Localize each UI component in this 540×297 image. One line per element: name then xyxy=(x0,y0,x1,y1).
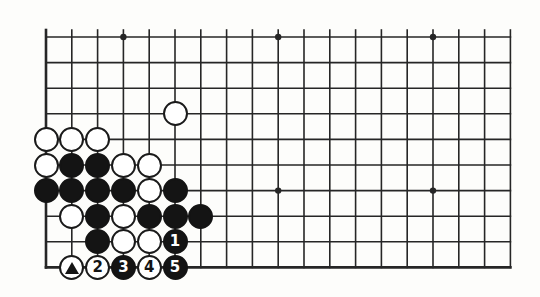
white-stone-c1r7 xyxy=(59,204,84,229)
triangle-mark-icon xyxy=(65,262,79,274)
star-point-2 xyxy=(430,34,436,40)
black-stone-c4r7 xyxy=(137,204,162,229)
white-stone-c3r5 xyxy=(111,153,136,178)
go-board-grid xyxy=(0,0,540,297)
move-number-label: 2 xyxy=(87,257,108,278)
star-point-3 xyxy=(275,187,281,193)
white-stone-move-2: 2 xyxy=(85,255,110,280)
white-stone-c4r8 xyxy=(137,229,162,254)
move-number-label: 3 xyxy=(113,257,134,278)
white-stone-c5r3 xyxy=(163,101,188,126)
black-stone-move-1: 1 xyxy=(163,229,188,254)
black-stone-c2r7 xyxy=(85,204,110,229)
black-stone-c3r6 xyxy=(111,178,136,203)
black-stone-move-3: 3 xyxy=(111,255,136,280)
white-stone-c3r7 xyxy=(111,204,136,229)
white-stone-move-4: 4 xyxy=(137,255,162,280)
move-number-label: 1 xyxy=(165,231,186,252)
white-stone-c4r6 xyxy=(137,178,162,203)
black-stone-c5r6 xyxy=(163,178,188,203)
black-stone-c0r6 xyxy=(34,178,59,203)
black-stone-c2r5 xyxy=(85,153,110,178)
go-diagram-figure: 12345 xyxy=(0,0,540,297)
black-stone-c6r7 xyxy=(188,204,213,229)
star-point-1 xyxy=(275,34,281,40)
move-number-label: 5 xyxy=(165,257,186,278)
black-stone-c5r7 xyxy=(163,204,188,229)
black-stone-c1r5 xyxy=(59,153,84,178)
white-stone-c0r4 xyxy=(34,127,59,152)
white-stone-c2r4 xyxy=(85,127,110,152)
white-stone-c4r5 xyxy=(137,153,162,178)
star-point-0 xyxy=(120,34,126,40)
black-stone-move-5: 5 xyxy=(163,255,188,280)
white-stone-c0r5 xyxy=(34,153,59,178)
star-point-4 xyxy=(430,187,436,193)
move-number-label: 4 xyxy=(139,257,160,278)
